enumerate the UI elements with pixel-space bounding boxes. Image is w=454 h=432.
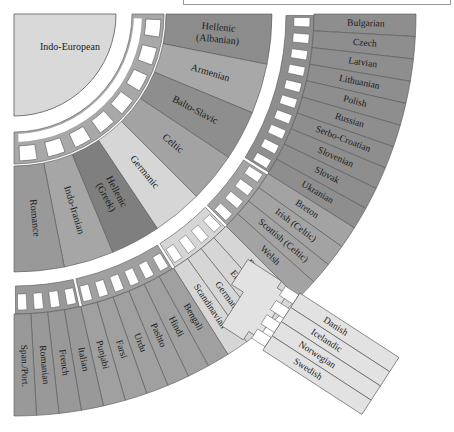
leaf-label: Span./Port. [19, 345, 30, 387]
leaf-label: Bulgarian [347, 18, 385, 29]
leaf-connector-notch [33, 293, 43, 310]
leaf-connector-notch [294, 17, 310, 27]
leaf-label: Czech [353, 37, 378, 49]
language-tree-diagram: Indo-European Hellenic(Albanian)Armenian… [0, 0, 454, 432]
leaf-connector-notch [17, 294, 27, 310]
branch-connector-notch [19, 144, 37, 161]
branch-connector-notch [144, 19, 161, 37]
leaf-connector-notch [293, 33, 310, 43]
root-label: Indo-European [40, 41, 100, 52]
